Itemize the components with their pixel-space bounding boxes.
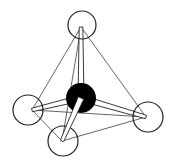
tetrahedron-edge (32, 110, 62, 141)
atoms (13, 11, 163, 156)
tetrahedral-molecule-diagram (0, 0, 176, 167)
tetrahedron-edges (32, 27, 146, 141)
